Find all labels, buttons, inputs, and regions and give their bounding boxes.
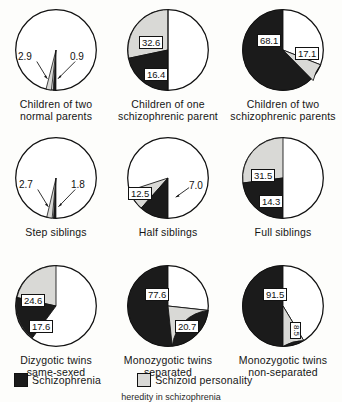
legend-item-schizoid: Schizoid personality xyxy=(137,373,252,387)
value-schizoid: 8.5 xyxy=(290,322,301,339)
pie-chart-monozygotic-twins-separated: 77.6 20.7 Monozygotic twins separated xyxy=(112,258,224,378)
pie-svg xyxy=(120,258,216,354)
legend-label-schizoid: Schizoid personality xyxy=(155,374,252,386)
caption-line-1: Children of two xyxy=(247,98,319,110)
pie-graphic: 77.6 20.7 xyxy=(120,258,216,354)
value-schizophrenia: 14.3 xyxy=(259,195,283,208)
value-schizophrenia: 1.8 xyxy=(71,180,85,190)
value-schizoid: 12.5 xyxy=(128,187,152,200)
pie-graphic: 2.7 1.8 xyxy=(8,130,104,226)
caption-line-2: schizophrenic parent xyxy=(118,111,218,123)
pie-svg xyxy=(120,130,216,226)
chart-caption: Step siblings xyxy=(25,227,86,239)
value-schizophrenia: 0.9 xyxy=(70,52,84,62)
pie-chart-step-siblings: 2.7 1.8 Step siblings xyxy=(0,130,112,239)
value-schizoid: 2.9 xyxy=(18,52,32,62)
chart-caption: Full siblings xyxy=(255,227,312,239)
legend: Schizophrenia Schizoid personality xyxy=(0,373,342,387)
pie-graphic: 2.9 0.9 xyxy=(8,2,104,98)
pie-chart-half-siblings: 12.5 7.0 Half siblings xyxy=(112,130,224,239)
caption-line-1: Full siblings xyxy=(255,226,312,238)
caption-line-1: Step siblings xyxy=(25,226,86,238)
pie-chart-children-one-schizophrenic-parent: 32.6 16.4 Children of one schizophrenic … xyxy=(112,2,224,122)
legend-label-schizophrenia: Schizophrenia xyxy=(32,374,101,386)
pie-svg xyxy=(120,2,216,98)
caption-line-1: Half siblings xyxy=(139,226,198,238)
value-schizoid: 31.5 xyxy=(251,169,275,182)
value-schizophrenia: 7.0 xyxy=(189,181,203,191)
pie-chart-children-two-normal-parents: 2.9 0.9 Children of two normal parents xyxy=(0,2,112,122)
chart-caption: Children of one schizophrenic parent xyxy=(118,99,218,122)
value-schizoid: 2.7 xyxy=(19,180,33,190)
pie-graphic: 68.1 17.1 xyxy=(235,2,331,98)
value-schizophrenia: 91.5 xyxy=(263,288,287,301)
value-schizoid: 32.6 xyxy=(139,36,163,49)
caption-line-2: normal parents xyxy=(20,111,92,123)
pie-chart-dizygotic-twins-same-sexed: 24.6 17.6 Dizygotic twins same-sexed xyxy=(0,258,112,378)
pie-graphic: 31.5 14.3 xyxy=(235,130,331,226)
pie-svg xyxy=(8,2,104,98)
value-schizophrenia: 16.4 xyxy=(144,68,168,81)
caption-line-2: schizophrenic parents xyxy=(230,111,335,123)
value-schizoid: 24.6 xyxy=(21,294,45,307)
value-schizoid: 17.1 xyxy=(295,47,319,60)
chart-caption: Children of two normal parents xyxy=(20,99,92,122)
figure-footnote: heredity in schizophrenia xyxy=(0,392,342,402)
pie-svg xyxy=(235,258,331,354)
pie-graphic: 91.5 8.5 xyxy=(235,258,331,354)
caption-line-1: Monozygotic twins xyxy=(239,354,327,366)
chart-caption: Half siblings xyxy=(139,227,198,239)
caption-line-1: Children of two xyxy=(20,98,92,110)
pie-chart-full-siblings: 31.5 14.3 Full siblings xyxy=(224,130,342,239)
caption-line-1: Dizygotic twins xyxy=(20,354,92,366)
legend-swatch-schizophrenia-icon xyxy=(14,373,28,387)
legend-item-schizophrenia: Schizophrenia xyxy=(14,373,101,387)
pie-graphic: 24.6 17.6 xyxy=(8,258,104,354)
chart-caption: Children of two schizophrenic parents xyxy=(230,99,335,122)
caption-line-1: Children of one xyxy=(131,98,204,110)
pie-graphic: 12.5 7.0 xyxy=(120,130,216,226)
value-schizoid: 20.7 xyxy=(175,320,199,333)
pie-chart-monozygotic-twins-non-separated: 91.5 8.5 Monozygotic twins non-separated xyxy=(224,258,342,378)
pie-graphic: 32.6 16.4 xyxy=(120,2,216,98)
pie-svg xyxy=(8,130,104,226)
value-schizophrenia: 17.6 xyxy=(29,320,53,333)
value-schizophrenia: 77.6 xyxy=(145,288,169,301)
legend-swatch-schizoid-icon xyxy=(137,373,151,387)
caption-line-1: Monozygotic twins xyxy=(124,354,212,366)
pie-svg xyxy=(235,130,331,226)
pie-chart-children-two-schizophrenic-parents: 68.1 17.1 Children of two schizophrenic … xyxy=(224,2,342,122)
value-schizophrenia: 68.1 xyxy=(257,34,281,47)
